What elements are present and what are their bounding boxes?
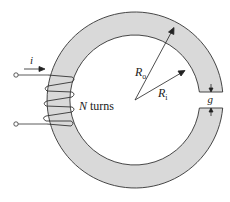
terminal-top bbox=[14, 73, 18, 77]
current-label: i bbox=[30, 54, 33, 66]
outer-radius-label: Ro bbox=[134, 65, 146, 81]
toroid-core bbox=[47, 12, 223, 188]
gap-label: g bbox=[208, 93, 214, 105]
current-arrow bbox=[24, 67, 45, 72]
terminals bbox=[14, 73, 48, 126]
core bbox=[47, 12, 223, 188]
inner-radius-label: Ri bbox=[157, 86, 168, 102]
turns-label: N turns bbox=[78, 99, 114, 113]
terminal-bottom bbox=[14, 122, 18, 126]
toroid-diagram: g Ro Ri i N turns bbox=[0, 0, 230, 202]
